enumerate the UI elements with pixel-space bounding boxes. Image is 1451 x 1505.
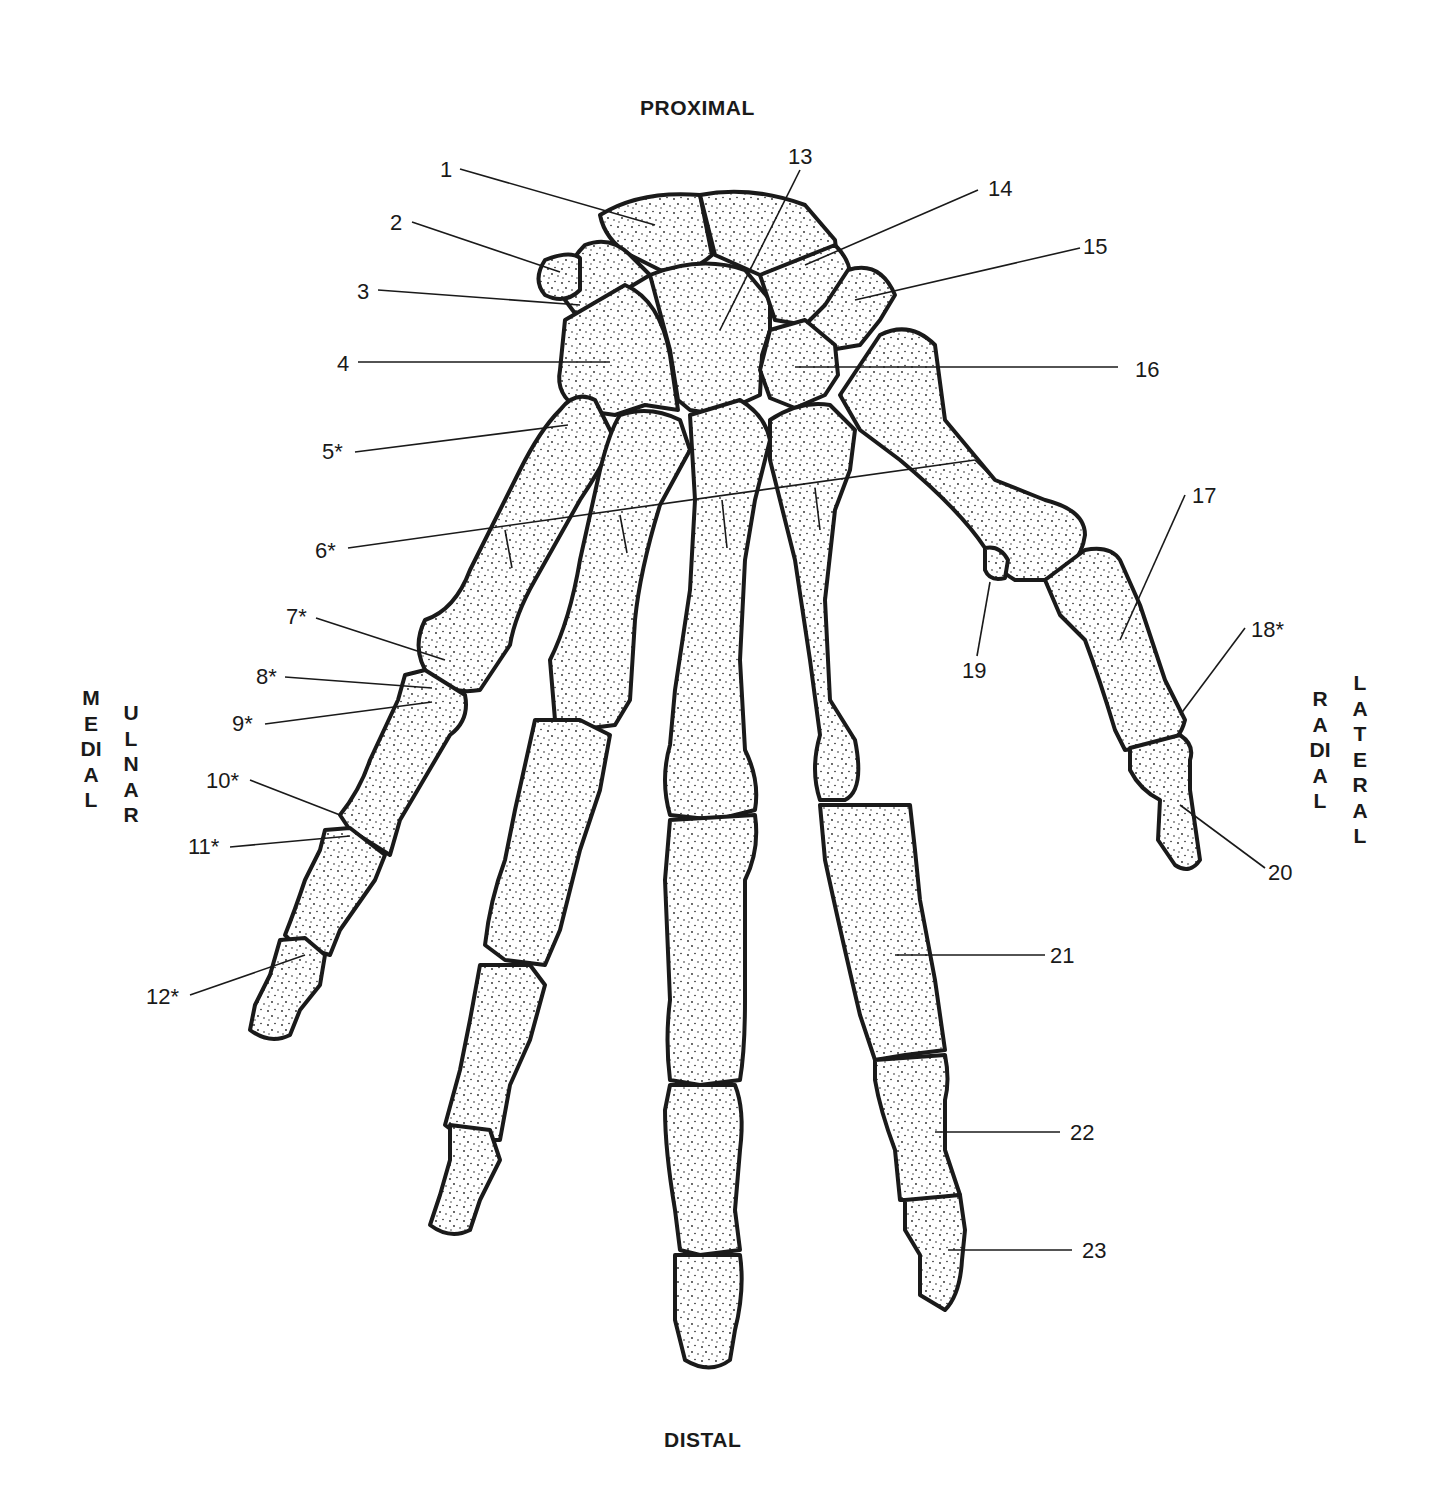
label-17: 17 <box>1192 485 1216 507</box>
orientation-radial: RADIAL <box>1309 686 1331 814</box>
label-13: 13 <box>788 146 812 168</box>
leader-10 <box>250 780 340 815</box>
leader-15 <box>855 248 1080 300</box>
label-9: 9* <box>232 713 253 735</box>
orientation-lateral: LATERAL <box>1349 670 1371 849</box>
label-2: 2 <box>390 212 402 234</box>
proximal-phalanx-4 <box>485 720 610 965</box>
orientation-ulnar: ULNAR <box>120 700 142 828</box>
distal-phalanx-5 <box>250 938 325 1039</box>
label-4: 4 <box>337 353 349 375</box>
distal-phalanx-4 <box>430 1125 500 1234</box>
proximal-phalanx-3 <box>665 815 756 1085</box>
middle-phalanx-5 <box>285 828 385 955</box>
leader-19 <box>977 582 990 656</box>
hand-skeleton-diagram <box>0 0 1451 1505</box>
orientation-proximal: PROXIMAL <box>640 96 755 120</box>
middle-phalanx-3 <box>665 1085 742 1255</box>
label-16: 16 <box>1135 359 1159 381</box>
label-1: 1 <box>440 159 452 181</box>
label-15: 15 <box>1083 236 1107 258</box>
label-3: 3 <box>357 281 369 303</box>
proximal-phalanx-2 <box>820 805 945 1060</box>
label-6: 6* <box>315 540 336 562</box>
label-7: 7* <box>286 606 307 628</box>
proximal-phalanx-5 <box>340 670 466 855</box>
orientation-medial: MEDIAL <box>80 685 102 813</box>
carpal-pisiform <box>539 254 581 299</box>
label-20: 20 <box>1268 862 1292 884</box>
distal-phalanx-1 <box>1130 735 1200 869</box>
label-21: 21 <box>1050 945 1074 967</box>
label-22: 22 <box>1070 1122 1094 1144</box>
middle-phalanx-4 <box>445 965 545 1140</box>
leader-17 <box>1120 495 1185 640</box>
proximal-phalanx-1 <box>1045 549 1185 750</box>
label-5: 5* <box>322 441 343 463</box>
label-12: 12* <box>146 986 179 1008</box>
distal-phalanx-2 <box>905 1195 965 1310</box>
leader-1 <box>460 169 655 225</box>
label-8: 8* <box>256 666 277 688</box>
label-11: 11* <box>188 836 219 858</box>
leader-2 <box>412 222 560 272</box>
distal-phalanx-3 <box>675 1255 742 1368</box>
middle-phalanx-2 <box>875 1055 960 1200</box>
leader-14 <box>805 190 978 265</box>
orientation-distal: DISTAL <box>664 1428 741 1452</box>
leader-18 <box>1180 628 1245 715</box>
label-10: 10* <box>206 770 239 792</box>
label-18: 18* <box>1251 619 1284 641</box>
metacarpal-2 <box>770 404 858 800</box>
label-23: 23 <box>1082 1240 1106 1262</box>
label-19: 19 <box>962 660 986 682</box>
label-14: 14 <box>988 178 1012 200</box>
sesamoid <box>985 548 1008 580</box>
